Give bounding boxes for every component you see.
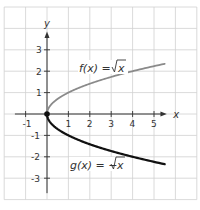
f-label: f(x) = x <box>78 60 128 75</box>
x-tick-label: 2 <box>87 119 93 129</box>
x-tick-label: 3 <box>108 119 114 129</box>
x-tick-label: 4 <box>130 119 136 129</box>
x-tick-label: 5 <box>151 119 157 129</box>
labels: f(x) = x g(x) = − x xy-112345321-1-2-3 <box>23 18 180 183</box>
y-tick-label: 2 <box>36 67 42 77</box>
y-tick-label: 3 <box>36 45 42 55</box>
f-label-radicand: x <box>117 62 125 75</box>
y-tick-label: -2 <box>31 152 40 162</box>
g-label-radicand: x <box>116 159 124 172</box>
x-axis-label: x <box>172 109 179 120</box>
y-axis-label: y <box>43 18 51 29</box>
g-label: g(x) = − x <box>69 157 127 172</box>
y-axis-arrow-icon <box>45 32 50 38</box>
y-tick-label: -1 <box>31 131 40 141</box>
function-graph: f(x) = x g(x) = − x xy-112345321-1-2-3 <box>0 0 200 210</box>
y-tick-label: -3 <box>31 174 40 184</box>
x-tick-label: 1 <box>65 119 71 129</box>
origin-point <box>44 111 50 117</box>
y-tick-label: 1 <box>36 88 42 98</box>
f-label-prefix: f(x) = <box>79 62 111 75</box>
x-tick-label: -1 <box>23 119 32 129</box>
g-label-prefix: g(x) = − <box>70 159 118 172</box>
x-axis-arrow-icon <box>160 112 166 117</box>
